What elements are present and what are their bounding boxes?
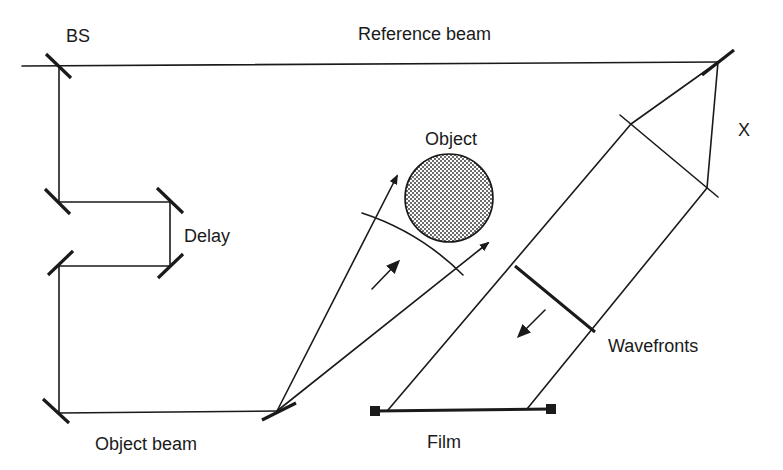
holography-diagram: BS Reference beam Delay Object beam	[0, 0, 783, 470]
film-label: Film	[427, 432, 461, 452]
delay-label: Delay	[184, 226, 230, 246]
mirror-bottom-left	[43, 399, 69, 423]
mirror-delay-4	[48, 251, 73, 275]
object-label: Object	[425, 129, 477, 149]
wavefront	[515, 266, 595, 336]
object-sphere	[405, 154, 493, 242]
x-marker-label: X	[738, 120, 750, 140]
object-beam-path	[59, 66, 277, 413]
wavefronts-label: Wavefronts	[608, 336, 698, 356]
reference-beam	[22, 62, 718, 66]
beam-splitter-label: BS	[66, 26, 90, 46]
film	[370, 404, 556, 416]
object-beam-label: Object beam	[95, 434, 197, 454]
reference-beam-label: Reference beam	[358, 24, 491, 44]
